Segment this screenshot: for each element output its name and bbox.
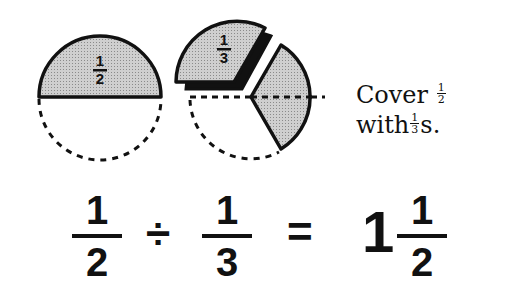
caption-with-text: with [356,111,409,139]
equation-term1: 1 2 [72,190,122,282]
result-whole-number: 1 [362,203,394,261]
caption-fraction-third: 13 [410,112,419,135]
fraction-bar [72,234,122,238]
equation-term2: 1 3 [202,190,252,282]
svg-text:2: 2 [96,70,104,87]
equation-result-fraction: 1 2 [397,190,447,282]
caption-suffix: s. [420,111,440,139]
equals-sign: = [287,210,313,254]
fraction-bar [397,234,447,238]
half-circle-dashed-outline [39,99,161,160]
caption: Cover 12 with13s. [356,80,447,140]
caption-line-2: with13s. [356,110,447,140]
half-circle-model: 1 2 [39,36,161,160]
placed-third-sector [251,45,310,149]
caption-line-1: Cover 12 [356,80,447,110]
svg-text:1: 1 [220,31,228,48]
divide-sign: ÷ [146,212,170,256]
caption-cover-text: Cover [356,81,428,109]
svg-text:3: 3 [220,49,228,66]
fraction-bar [202,234,252,238]
caption-fraction-half: 12 [437,82,446,105]
svg-text:1: 1 [96,52,104,69]
thirds-circle-model: 1 3 [176,21,325,159]
